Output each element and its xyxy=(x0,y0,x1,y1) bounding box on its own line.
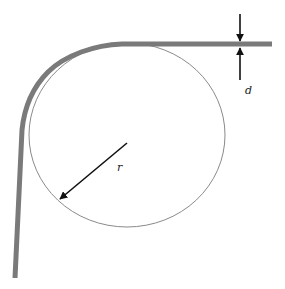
bent-strip-diagram: d r xyxy=(0,0,285,289)
bent-strip xyxy=(15,44,272,278)
bending-circle xyxy=(29,43,225,227)
radius-label: r xyxy=(117,161,123,174)
thickness-label: d xyxy=(245,84,252,97)
